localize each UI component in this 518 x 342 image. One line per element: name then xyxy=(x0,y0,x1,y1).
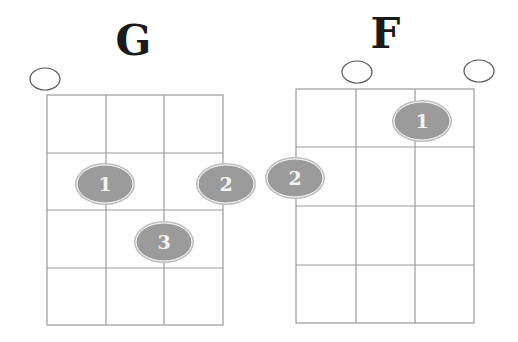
finger-dot-1: 1 xyxy=(392,100,452,142)
chord-diagram-f: 1 2 xyxy=(265,60,494,323)
finger-number: 1 xyxy=(98,173,111,195)
open-string-marker xyxy=(30,68,60,90)
chord-diagram-g: 1 2 3 xyxy=(30,68,256,325)
open-string-marker xyxy=(464,60,494,82)
open-string-marker xyxy=(342,61,372,83)
finger-number: 2 xyxy=(288,167,301,189)
finger-number: 1 xyxy=(415,110,428,132)
finger-number: 3 xyxy=(157,231,170,253)
finger-dot-2: 2 xyxy=(196,163,256,205)
fretboard-grid-g xyxy=(47,95,223,325)
finger-dot-2: 2 xyxy=(265,157,325,199)
finger-number: 2 xyxy=(219,173,232,195)
finger-dot-3: 3 xyxy=(134,221,194,263)
finger-dot-1: 1 xyxy=(75,163,135,205)
